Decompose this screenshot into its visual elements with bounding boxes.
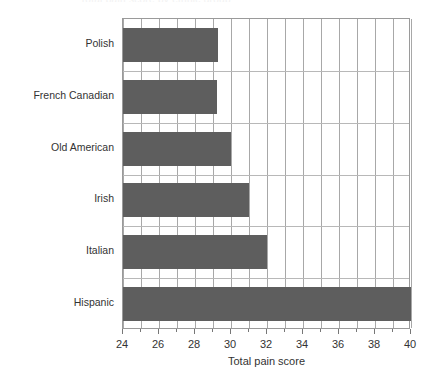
bar <box>123 235 267 269</box>
bar <box>123 183 249 217</box>
plot-area <box>122 18 410 329</box>
y-axis-label: Hispanic <box>2 296 114 308</box>
x-tick-label: 32 <box>260 338 272 350</box>
x-tick-label: 24 <box>116 338 128 350</box>
y-axis-label: Italian <box>2 244 114 256</box>
x-tick-label: 30 <box>224 338 236 350</box>
x-tick-label: 28 <box>188 338 200 350</box>
x-tick-label: 36 <box>332 338 344 350</box>
bar-band <box>123 175 409 227</box>
y-axis-label: Irish <box>2 192 114 204</box>
x-axis-tick-labels: 242628303234363840 <box>122 332 411 348</box>
x-tick-label: 34 <box>296 338 308 350</box>
bar-band <box>123 226 409 278</box>
bar-band <box>123 123 409 175</box>
x-tick-label: 26 <box>152 338 164 350</box>
clipped-chart-title: Total pain score by ethnic group <box>80 0 340 2</box>
y-axis-category-labels: PolishFrench CanadianOld AmericanIrishIt… <box>0 18 114 329</box>
y-axis-label: Old American <box>2 141 114 153</box>
bar-chart: Total pain score by ethnic group PolishF… <box>0 0 424 382</box>
bar-band <box>123 278 409 330</box>
y-axis-label: French Canadian <box>2 89 114 101</box>
bar <box>123 287 411 321</box>
bar <box>123 80 217 114</box>
gridline-vertical <box>411 19 412 328</box>
bar-band <box>123 19 409 71</box>
bar-band <box>123 71 409 123</box>
bar <box>123 28 218 62</box>
bar <box>123 132 231 166</box>
x-tick-label: 38 <box>368 338 380 350</box>
x-tick-label: 40 <box>404 338 416 350</box>
y-axis-label: Polish <box>2 37 114 49</box>
x-axis-title: Total pain score <box>122 355 411 367</box>
